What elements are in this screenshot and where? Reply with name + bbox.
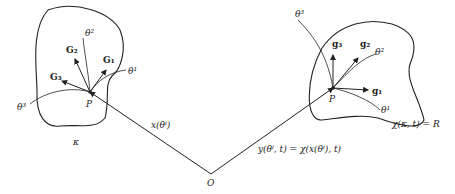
G2-label: G₂ xyxy=(66,45,78,55)
point-P-label-current: P xyxy=(328,94,336,104)
G1-label: G₁ xyxy=(103,55,115,65)
theta3-label-reference: θ³ xyxy=(17,102,26,112)
theta2-curve-current xyxy=(333,54,376,88)
reference-body-label: κ xyxy=(72,137,79,147)
theta2-label-reference: θ² xyxy=(85,28,94,38)
theta3-curve-reference xyxy=(30,90,90,104)
theta3-label-current: θ³ xyxy=(295,9,304,19)
G3-label: G₃ xyxy=(50,72,62,82)
theta1-label-current: θ¹ xyxy=(381,105,390,115)
theta1-label-reference: θ¹ xyxy=(128,66,137,76)
position-reference-label: x(θⁱ) xyxy=(151,120,171,130)
point-P-label-reference: P xyxy=(85,99,93,109)
reference-body-outline xyxy=(36,6,124,126)
continuum-deformation-diagram: G₁ G₂ G₃ θ¹ θ² θ³ P κ 𝐠₁ 𝐠₂ 𝐠₃ θ¹ θ² θ³ … xyxy=(0,0,455,194)
origin-label: O xyxy=(207,178,215,188)
g3-label: 𝐠₃ xyxy=(332,39,342,49)
current-body-label: χ(κ, t) = R xyxy=(391,119,440,129)
g2-vector xyxy=(333,58,358,88)
position-vector-reference xyxy=(90,92,211,174)
position-vector-current xyxy=(211,88,333,174)
theta3-curve-current xyxy=(298,20,333,88)
current-body-outline xyxy=(309,22,424,126)
G1-vector xyxy=(90,70,106,92)
g2-label: 𝐠₂ xyxy=(360,39,370,49)
theta2-label-current: θ² xyxy=(375,47,384,57)
g1-label: 𝐠₁ xyxy=(372,86,382,96)
position-current-label: y(θⁱ, t) = χ(x(θⁱ), t) xyxy=(257,144,342,154)
